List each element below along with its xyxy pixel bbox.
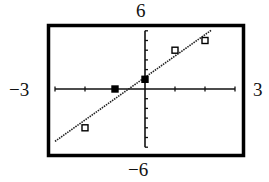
data-point-marker	[142, 76, 148, 82]
data-point-marker	[202, 38, 208, 44]
data-point-marker	[112, 86, 118, 92]
calculator-graph	[0, 0, 269, 182]
data-point-marker	[82, 125, 88, 131]
window-frame	[49, 26, 244, 156]
data-point-marker	[172, 47, 178, 53]
